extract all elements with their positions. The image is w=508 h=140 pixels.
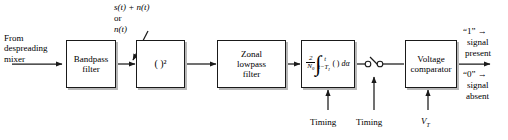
output-one-decision: “1” →	[463, 26, 487, 36]
output-zero-meaning-line1: signal	[467, 80, 489, 90]
integrator-gain-denominator: N0	[306, 63, 315, 72]
label-timing-integrator: Timing	[310, 117, 336, 127]
annotation-or: or	[114, 13, 122, 23]
block-squarer[interactable]: ( )²	[136, 40, 185, 88]
switch-terminal-left	[365, 61, 371, 67]
annotation-noise-only: n(t)	[114, 24, 127, 34]
block-zonal-lowpass-filter[interactable]: Zonallowpassfilter	[217, 40, 286, 88]
block-diagram-canvas: Fromdespreadingmixer s(t) + n(t) or n(t)…	[0, 0, 508, 140]
block-integrator[interactable]: 2 N0 ∫ t t−TI ( ) dα	[301, 40, 355, 88]
output-zero-meaning-line2: absent	[466, 91, 489, 101]
block-bandpass-filter[interactable]: Bandpassfilter	[66, 40, 116, 88]
label-threshold-voltage: VT	[421, 116, 430, 129]
integral-limits: t t−TI	[321, 55, 332, 73]
output-zero-decision: “0” →	[463, 69, 487, 79]
output-one-meaning-line1: signal	[467, 37, 489, 47]
block-voltage-comparator[interactable]: Voltagecomparator	[405, 40, 457, 88]
integral-lower-limit: t−TI	[318, 63, 329, 73]
integral-upper-limit: t	[324, 55, 335, 63]
integrator-gain: 2 N0	[306, 55, 315, 72]
input-source-label: Fromdespreadingmixer	[4, 33, 47, 64]
output-one-meaning-line2: present	[465, 48, 491, 58]
label-timing-sampler: Timing	[356, 117, 382, 127]
switch-terminal-right	[377, 61, 383, 67]
annotation-signal-plus-noise: s(t) + n(t)	[114, 2, 150, 12]
